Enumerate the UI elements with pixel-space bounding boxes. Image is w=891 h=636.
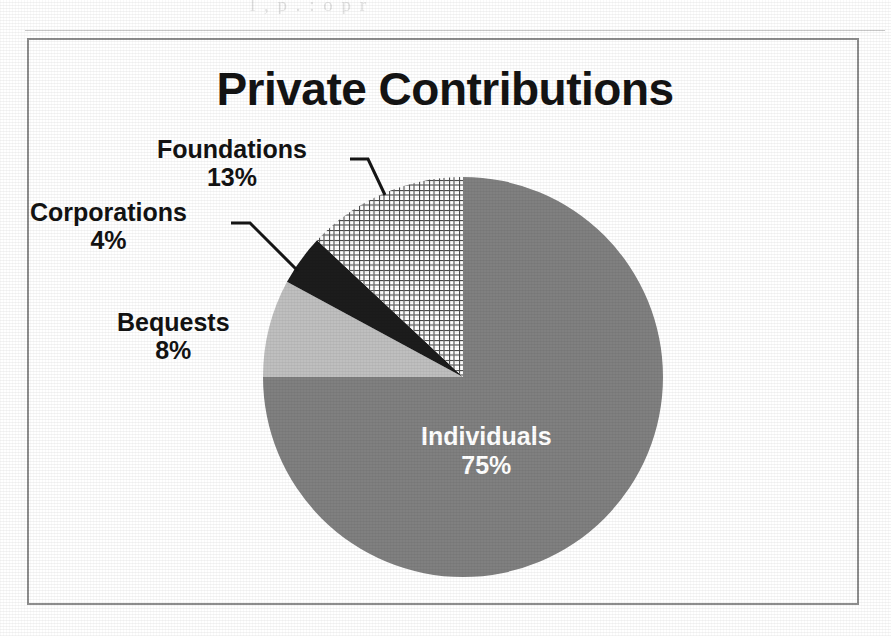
leader-line-foundations (350, 159, 385, 195)
pie-label-bequests-name: Bequests (117, 308, 230, 336)
pie-label-corporations-percent: 4% (30, 226, 187, 254)
pie-label-corporations: Corporations 4% (30, 198, 187, 254)
pie-label-corporations-name: Corporations (30, 198, 187, 226)
pie-label-foundations: Foundations 13% (157, 135, 307, 191)
chart-frame: Private Contributions (27, 38, 859, 605)
pie-label-individuals: Individuals 75% (421, 422, 552, 479)
pie-label-foundations-percent: 13% (157, 163, 307, 191)
pie-label-individuals-name: Individuals (421, 422, 552, 451)
pie-label-bequests-percent: 8% (117, 336, 230, 364)
page-top-text-sliver: l , p . : o p r (0, 0, 891, 14)
pie-label-individuals-percent: 75% (421, 451, 552, 480)
leader-line-corporations (231, 223, 298, 271)
page-horizontal-rule (25, 30, 885, 31)
pie-label-bequests: Bequests 8% (117, 308, 230, 364)
pie-label-foundations-name: Foundations (157, 135, 307, 163)
